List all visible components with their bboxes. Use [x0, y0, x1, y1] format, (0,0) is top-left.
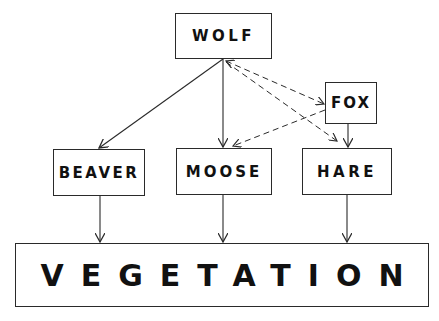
node-fox: FOX [325, 82, 377, 124]
node-beaver-label: BEAVER [59, 164, 140, 182]
node-hare-label: HARE [317, 163, 377, 181]
node-vegetation-label: VEGETATION [40, 258, 420, 293]
node-fox-label: FOX [331, 94, 371, 112]
edge-wolf-fox [226, 61, 324, 104]
node-moose-label: MOOSE [186, 163, 262, 181]
edge-fox-moose [233, 110, 325, 146]
node-hare: HARE [302, 148, 392, 195]
node-moose: MOOSE [176, 148, 272, 195]
node-wolf-label: WOLF [192, 27, 255, 45]
node-vegetation: VEGETATION [15, 243, 429, 307]
node-beaver: BEAVER [53, 149, 145, 196]
edge-wolf-hare [226, 62, 337, 141]
food-web-diagram: WOLF FOX BEAVER MOOSE HARE VEGETATION [0, 0, 439, 321]
edge-wolf-beaver [99, 59, 223, 148]
node-wolf: WOLF [175, 13, 272, 59]
